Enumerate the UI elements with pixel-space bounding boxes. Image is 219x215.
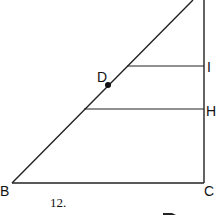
problem-number: 12. — [50, 195, 66, 210]
partial-arrow-mark — [163, 213, 176, 215]
label-c: C — [204, 183, 214, 199]
triangle-diagram: D I H B C 12. — [0, 0, 219, 215]
hypotenuse-line — [12, 0, 193, 183]
label-d: D — [97, 69, 107, 85]
label-b: B — [0, 183, 9, 199]
label-i: I — [207, 59, 211, 75]
label-h: H — [206, 103, 216, 119]
